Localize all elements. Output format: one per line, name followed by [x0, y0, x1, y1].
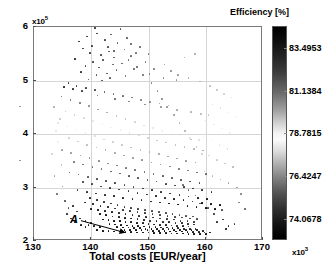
colorbar-tick-mark: [284, 176, 287, 177]
scatter-point: [167, 215, 169, 217]
scatter-point: [149, 220, 151, 222]
scatter-point: [104, 210, 106, 212]
scatter-point: [72, 205, 74, 207]
scatter-point: [171, 233, 173, 235]
scatter-point: [162, 221, 164, 223]
scatter-point: [189, 218, 191, 220]
scatter-point: [118, 216, 120, 218]
scatter-point: [101, 168, 103, 170]
scatter-point: [136, 66, 138, 68]
scatter-point: [143, 125, 145, 127]
scatter-point: [113, 93, 115, 95]
scatter-point: [173, 219, 175, 221]
scatter-point: [124, 206, 126, 208]
scatter-point: [160, 164, 162, 166]
scatter-point: [106, 73, 108, 75]
scatter-point: [193, 233, 195, 235]
scatter-point: [229, 132, 231, 134]
scatter-point: [176, 233, 178, 235]
scatter-point: [66, 126, 68, 128]
scatter-point: [164, 197, 166, 199]
scatter-point: [196, 206, 198, 208]
scatter-point: [109, 77, 111, 79]
colorbar-tick-mark: [284, 219, 287, 220]
scatter-point: [86, 191, 88, 193]
gridline-horizontal: [34, 134, 261, 135]
scatter-point: [113, 231, 115, 233]
scatter-point: [125, 167, 127, 169]
scatter-point: [114, 98, 116, 100]
scatter-point: [171, 225, 173, 227]
scatter-point: [189, 181, 191, 183]
scatter-point: [185, 215, 187, 217]
scatter-point: [213, 124, 215, 126]
scatter-point: [74, 114, 76, 116]
scatter-point: [199, 182, 201, 184]
scatter-point: [92, 203, 94, 205]
scatter-point: [116, 226, 118, 228]
scatter-point: [96, 74, 98, 76]
scatter-point: [168, 203, 170, 205]
scatter-point: [147, 137, 149, 139]
scatter-point: [173, 114, 175, 116]
scatter-point: [157, 90, 159, 92]
scatter-point: [125, 221, 127, 223]
scatter-point: [82, 181, 84, 183]
scatter-point: [216, 159, 218, 161]
scatter-point: [165, 142, 167, 144]
scatter-point: [103, 139, 105, 141]
scatter-point: [98, 160, 100, 162]
scatter-point: [119, 220, 121, 222]
scatter-point: [85, 226, 87, 228]
scatter-point: [178, 168, 180, 170]
gridline-vertical: [149, 27, 150, 239]
scatter-point: [100, 54, 102, 56]
x-tick-mark: [262, 237, 263, 240]
scatter-point: [129, 210, 131, 212]
scatter-point: [134, 121, 136, 123]
scatter-point: [235, 116, 237, 118]
scatter-point: [228, 225, 230, 227]
scatter-point: [209, 232, 211, 234]
scatter-point: [212, 104, 214, 106]
scatter-point: [94, 89, 96, 91]
scatter-point: [126, 37, 128, 39]
scatter-point: [224, 163, 226, 165]
scatter-point: [86, 36, 88, 38]
scatter-point: [205, 173, 207, 175]
scatter-point: [212, 175, 214, 177]
scatter-point: [220, 107, 222, 109]
scatter-point: [102, 59, 104, 61]
colorbar-tick-label: 76.4247: [289, 172, 322, 181]
scatter-point: [176, 109, 178, 111]
scatter-point: [108, 51, 110, 53]
scatter-point: [114, 152, 116, 154]
scatter-point: [105, 180, 107, 182]
scatter-point: [160, 106, 162, 108]
scatter-point: [113, 195, 115, 197]
scatter-point: [188, 196, 190, 198]
scatter-point: [165, 183, 167, 185]
scatter-point: [73, 161, 75, 163]
scatter-point: [116, 69, 118, 71]
scatter-point: [130, 231, 132, 233]
scatter-point: [107, 163, 109, 165]
scatter-point: [137, 177, 139, 179]
scatter-point: [220, 179, 222, 181]
scatter-point: [102, 230, 104, 232]
scatter-point: [120, 28, 122, 30]
scatter-point: [166, 218, 168, 220]
scatter-point: [96, 33, 98, 35]
scatter-point: [132, 157, 134, 159]
scatter-point: [190, 139, 192, 141]
scatter-point: [133, 68, 135, 70]
scatter-point: [180, 135, 182, 137]
scatter-point: [181, 231, 183, 233]
scatter-point: [110, 127, 112, 129]
y-minor-tick: [19, 160, 21, 161]
scatter-point: [90, 208, 92, 210]
colorbar-tick-mark: [284, 48, 287, 49]
scatter-point: [121, 144, 123, 146]
scatter-point: [169, 231, 171, 233]
scatter-point: [199, 81, 201, 83]
